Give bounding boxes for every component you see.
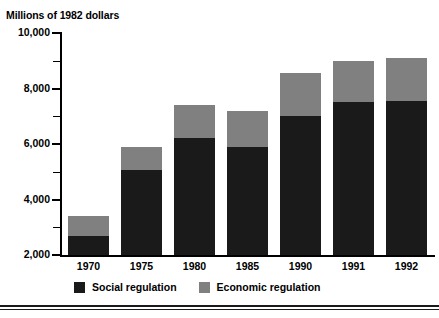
bar-segment-social [386,101,427,255]
y-tick-major [52,254,61,256]
legend-item-social: Social regulation [74,281,177,293]
bar-segment-social [333,102,374,255]
y-tick-minor [53,116,61,117]
bar-segment-social [68,236,109,255]
x-tick-label-1992: 1992 [377,260,437,272]
x-tick-label-1985: 1985 [218,260,278,272]
y-tick-label: 10,000 [0,26,50,38]
legend-label: Social regulation [92,281,177,293]
bar-segment-economic [280,73,321,116]
y-tick-minor [53,61,61,62]
footer-rule-thin [0,309,439,310]
bar-segment-economic [174,105,215,138]
legend-swatch-economic [199,282,210,293]
y-tick-label: 2,000 [0,248,50,260]
bar-segment-social [280,116,321,255]
x-tick-label-1991: 1991 [324,260,384,272]
bar-1991 [333,61,374,255]
bar-segment-social [174,138,215,255]
y-tick-label: 4,000 [0,193,50,205]
bar-1970 [68,216,109,255]
y-tick-major [52,143,61,145]
bar-1992 [386,58,427,255]
x-tick-label-1970: 1970 [59,260,119,272]
legend-item-economic: Economic regulation [199,281,321,293]
y-tick-label: 6,000 [0,137,50,149]
bar-1980 [174,105,215,255]
bar-segment-economic [386,58,427,101]
y-tick-major [52,88,61,90]
bar-segment-economic [121,147,162,170]
x-tick-label-1975: 1975 [112,260,172,272]
legend-swatch-social [74,282,85,293]
y-tick-label: 8,000 [0,82,50,94]
bar-segment-social [227,147,268,255]
y-axis-title: Millions of 1982 dollars [6,9,119,21]
legend-label: Economic regulation [217,281,321,293]
bar-segment-social [121,170,162,255]
x-axis-line [60,255,435,257]
bar-segment-economic [227,111,268,147]
footer-rule-thick [0,305,439,307]
y-tick-major [52,199,61,201]
y-tick-minor [53,172,61,173]
x-tick-label-1990: 1990 [271,260,331,272]
bar-segment-economic [333,61,374,102]
chart-figure: Millions of 1982 dollars 2,0004,0006,000… [0,0,439,318]
bar-1990 [280,73,321,255]
bar-segment-economic [68,216,109,236]
y-tick-major [52,32,61,34]
chart-legend: Social regulationEconomic regulation [74,281,320,293]
y-tick-minor [53,227,61,228]
x-tick-label-1980: 1980 [165,260,225,272]
bar-1975 [121,147,162,255]
bar-1985 [227,111,268,255]
